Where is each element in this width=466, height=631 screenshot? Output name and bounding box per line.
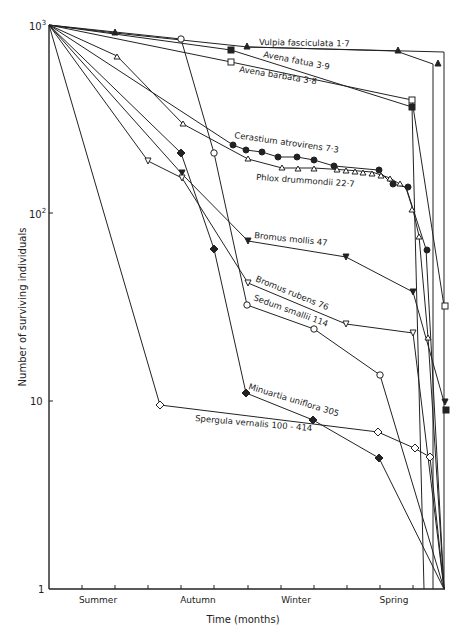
y-axis-title: Number of surviving individuals: [17, 228, 28, 387]
season-label-winter: Winter: [281, 595, 311, 605]
label-vulpia: Vulpia fasciculata 1·7: [259, 37, 350, 49]
series-line-bromus-mollis: [49, 25, 444, 402]
series-line-vulpia-b: [248, 47, 433, 589]
season-label-spring: Spring: [379, 595, 408, 605]
marker-bromus-mollis: [179, 170, 448, 405]
y-tick-label-100: 102: [29, 207, 46, 220]
season-label-autumn: Autumn: [180, 595, 216, 605]
marker-phlox: [114, 54, 431, 340]
marker-avena-fatua: [228, 47, 234, 53]
label-spergula: Spergula vernalis 100 - 414: [195, 413, 313, 433]
season-label-summer: Summer: [79, 595, 117, 605]
y-tick-label-1000: 103: [29, 19, 46, 32]
marker-avena-barbata: [228, 59, 234, 65]
survivorship-chart: 103 102 10 1 Number of surviving individ…: [0, 0, 466, 631]
label-minuartia: Minuartia uniflora 305: [247, 381, 340, 418]
y-tick-label-1: 1: [38, 584, 44, 595]
x-axis-title: Time (months): [205, 614, 279, 625]
series-line-avena-fatua: [49, 25, 424, 589]
label-bromus-mollis: Bromus mollis 47: [254, 230, 328, 248]
y-tick-label-10: 10: [30, 396, 43, 407]
series-labels: Vulpia fasciculata 1·7 Avena fatua 3·9 A…: [195, 37, 355, 433]
label-phlox: Phlox drummondii 22·7: [256, 172, 355, 189]
label-avena-barbata: Avena barbata 3·8: [239, 64, 318, 86]
label-cerastium: Cerastium atrovirens 7·3: [234, 130, 340, 155]
